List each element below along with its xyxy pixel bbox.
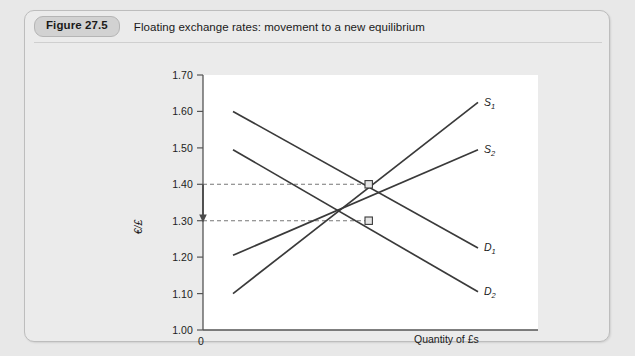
curve-label-d1-sub: 1	[492, 247, 496, 256]
y-tick-label-1-20: 1.20	[153, 251, 193, 263]
curve-label-s1: S1	[484, 96, 495, 111]
x-axis-title: Quantity of £s	[414, 333, 479, 345]
curve-label-d1-text: D	[484, 241, 492, 253]
y-tick-label-1-60: 1.60	[153, 105, 193, 117]
y-tick-label-1-50: 1.50	[153, 142, 193, 154]
equilibrium-marker-original	[365, 181, 372, 188]
x-axis-origin-label: 0	[189, 335, 213, 347]
y-tick-label-1-30: 1.30	[153, 215, 193, 227]
curve-label-d1: D1	[484, 241, 496, 256]
curve-label-d2-sub: 2	[492, 291, 496, 300]
equilibrium-marker-new	[365, 217, 372, 224]
y-tick-label-1-40: 1.40	[153, 178, 193, 190]
curve-label-s1-text: S	[484, 96, 491, 108]
curve-label-d2-text: D	[484, 285, 492, 297]
figure-number-badge: Figure 27.5	[34, 16, 120, 37]
figure-plot-panel: €/£ 1.70 1.60 1.50 1.40 1.30 1.20 1.10 1…	[34, 42, 602, 333]
figure-header: Figure 27.5 Floating exchange rates: mov…	[25, 11, 609, 42]
y-tick-label-1-70: 1.70	[153, 69, 193, 81]
curve-label-s2-sub: 2	[491, 149, 495, 158]
y-tick-label-1-10: 1.10	[153, 288, 193, 300]
chart-canvas	[34, 43, 602, 334]
y-tick-label-1-00: 1.00	[153, 324, 193, 336]
curve-label-s2-text: S	[484, 143, 491, 155]
curve-label-d2: D2	[484, 285, 496, 300]
figure-caption: Floating exchange rates: movement to a n…	[134, 21, 425, 33]
curve-label-s2: S2	[484, 143, 495, 158]
curve-label-s1-sub: 1	[491, 102, 495, 111]
y-axis-title: €/£	[132, 207, 144, 247]
figure-card: Figure 27.5 Floating exchange rates: mov…	[24, 10, 610, 342]
exchange-rate-chart: €/£ 1.70 1.60 1.50 1.40 1.30 1.20 1.10 1…	[34, 43, 602, 334]
